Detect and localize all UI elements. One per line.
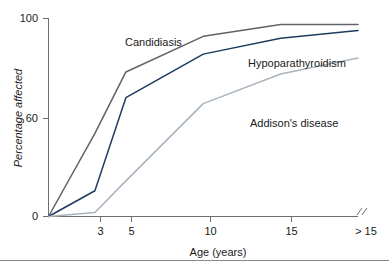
x-tick-label-3: 3 xyxy=(97,225,103,237)
y-tick-label-100: 100 xyxy=(20,12,38,24)
footer-divider xyxy=(0,260,389,261)
x-axis-title: Age (years) xyxy=(190,246,247,258)
axis-break-icon xyxy=(357,208,367,215)
series-label-addisons-disease: Addison's disease xyxy=(250,117,338,129)
chart-figure: 100 60 0 3 5 10 15 > 15 Age (years) Perc… xyxy=(0,0,389,264)
chart-canvas: 100 60 0 3 5 10 15 > 15 Age (years) Perc… xyxy=(0,0,389,264)
y-axis-title: Percentage affected xyxy=(12,68,24,167)
y-tick-label-60: 60 xyxy=(26,112,38,124)
series-line-addisons-disease xyxy=(49,58,359,216)
x-tick-label-5: 5 xyxy=(128,225,134,237)
y-tick-label-0: 0 xyxy=(32,210,38,222)
x-tick-label-15: 15 xyxy=(285,225,297,237)
series-label-hypoparathyroidism: Hypoparathyroidism xyxy=(248,57,346,69)
x-tick-label-over-15: > 15 xyxy=(355,225,377,237)
x-tick-label-10: 10 xyxy=(204,225,216,237)
series-label-candidiasis: Candidiasis xyxy=(125,36,182,48)
